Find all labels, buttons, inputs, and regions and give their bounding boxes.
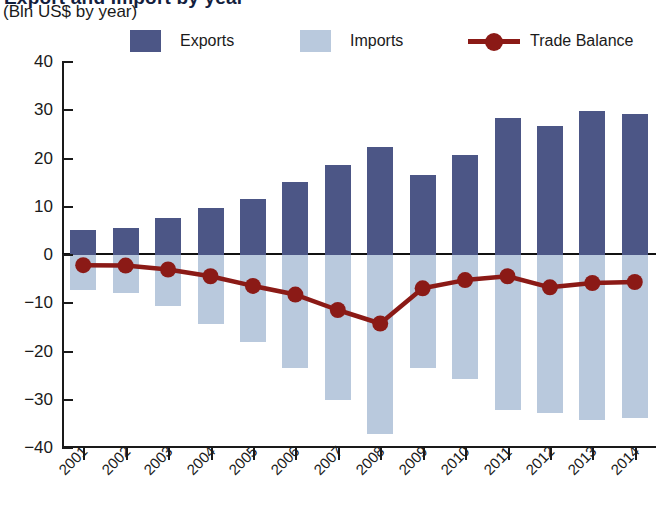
y-tick-mark: [62, 61, 73, 63]
trade-balance-marker: [75, 257, 91, 273]
y-tick-mark: [62, 254, 73, 256]
y-tick-mark: [62, 109, 73, 111]
trade-balance-marker: [160, 261, 176, 277]
legend-label-trade-balance: Trade Balance: [530, 32, 633, 50]
trade-balance-marker: [500, 268, 516, 284]
y-tick-label: −20: [0, 342, 53, 362]
y-tick-label: 20: [0, 149, 53, 169]
legend-swatch-exports: [130, 30, 161, 52]
trade-balance-marker: [415, 280, 431, 296]
y-tick-label: 30: [0, 100, 53, 120]
trade-balance-marker: [457, 272, 473, 288]
y-tick-label: 0: [0, 245, 53, 265]
chart-legend: Exports Imports Trade Balance: [0, 28, 668, 54]
y-tick-label: −10: [0, 293, 53, 313]
y-tick-label: 10: [0, 197, 53, 217]
trade-balance-marker: [627, 274, 643, 290]
legend-item-trade-balance: Trade Balance: [468, 28, 633, 54]
trade-balance-marker: [584, 275, 600, 291]
trade-balance-marker: [118, 258, 134, 274]
legend-item-exports: Exports: [130, 28, 234, 54]
y-tick-mark: [62, 158, 73, 160]
y-tick-label: −40: [0, 438, 53, 458]
legend-label-imports: Imports: [350, 32, 403, 50]
legend-label-exports: Exports: [180, 32, 234, 50]
y-tick-mark: [62, 351, 73, 353]
y-tick-mark: [62, 302, 73, 304]
trade-balance-line: [62, 62, 656, 448]
y-tick-label: 40: [0, 52, 53, 72]
trade-balance-marker: [372, 316, 388, 332]
plot-area: 403020100−10−20−30−40 200120022003200420…: [62, 62, 656, 448]
trade-balance-marker: [245, 278, 261, 294]
y-tick-label: −30: [0, 390, 53, 410]
legend-swatch-imports: [300, 30, 331, 52]
legend-marker-trade-balance: [468, 30, 520, 52]
legend-item-imports: Imports: [300, 28, 403, 54]
chart-subtitle: (Bln US$ by year): [3, 2, 137, 22]
trade-balance-marker: [203, 268, 219, 284]
trade-balance-marker: [287, 287, 303, 303]
y-tick-mark: [62, 206, 73, 208]
trade-balance-marker: [330, 302, 346, 318]
y-tick-mark: [62, 399, 73, 401]
trade-balance-marker: [542, 279, 558, 295]
